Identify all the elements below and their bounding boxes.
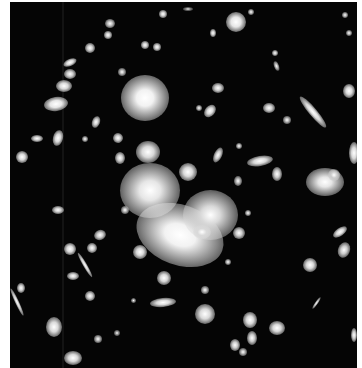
galaxy — [43, 95, 69, 112]
galaxy — [336, 240, 353, 259]
galaxy — [114, 330, 120, 336]
galaxy — [157, 271, 171, 285]
galaxy — [87, 243, 97, 253]
galaxy — [52, 206, 64, 214]
galaxy — [212, 83, 224, 93]
galaxy — [245, 210, 251, 216]
galaxy-cluster-image — [10, 2, 357, 368]
galaxy — [195, 304, 215, 324]
galaxy — [328, 169, 340, 181]
galaxy — [112, 132, 125, 145]
galaxy — [136, 141, 160, 163]
galaxy — [239, 348, 247, 356]
galaxy — [342, 12, 348, 18]
galaxy — [64, 69, 76, 79]
galaxy — [64, 243, 76, 255]
galaxy — [272, 50, 278, 56]
galaxy — [226, 12, 246, 32]
galaxy — [141, 41, 149, 49]
galaxy — [272, 167, 282, 181]
galaxy — [343, 84, 355, 98]
galaxy — [104, 31, 112, 39]
galaxy — [346, 30, 352, 36]
galaxy — [31, 135, 43, 142]
galaxy — [193, 225, 211, 239]
galaxy — [183, 7, 193, 11]
galaxy — [150, 296, 177, 307]
galaxy — [67, 272, 79, 280]
galaxy — [351, 328, 357, 342]
galaxy — [202, 102, 219, 119]
galaxy-halo — [121, 75, 169, 121]
galaxy — [311, 296, 321, 309]
galaxy — [121, 206, 129, 214]
galaxy — [196, 105, 202, 111]
galaxy — [211, 146, 225, 164]
galaxy — [248, 9, 254, 15]
galaxy — [56, 80, 72, 92]
galaxy — [94, 335, 102, 343]
galaxy — [225, 259, 231, 265]
galaxy — [201, 286, 209, 294]
galaxy — [17, 283, 25, 293]
galaxy — [303, 258, 317, 272]
galaxy — [236, 143, 242, 149]
galaxy — [263, 103, 275, 113]
galaxy — [233, 227, 245, 239]
galaxy — [246, 154, 273, 168]
galaxy — [272, 60, 280, 71]
galaxy — [210, 29, 216, 37]
galaxy — [46, 317, 62, 337]
galaxy — [85, 291, 95, 301]
galaxy — [76, 252, 93, 278]
galaxy — [93, 228, 108, 242]
galaxy — [118, 68, 126, 76]
galaxy — [243, 312, 257, 328]
galaxy — [64, 351, 82, 365]
galaxy — [234, 176, 242, 186]
galaxy — [131, 298, 136, 303]
galaxy — [90, 115, 102, 129]
galaxy — [349, 142, 357, 164]
galaxy — [105, 19, 115, 28]
galaxy-halo — [120, 163, 180, 218]
galaxy — [159, 10, 167, 18]
galaxy — [269, 321, 285, 335]
galaxy — [179, 163, 197, 181]
galaxy — [82, 136, 88, 142]
galaxy — [247, 331, 257, 345]
galaxy — [16, 151, 28, 163]
detector-streak — [62, 2, 64, 368]
galaxy — [115, 152, 125, 164]
galaxy — [133, 245, 147, 259]
galaxy — [153, 43, 161, 51]
galaxy — [297, 94, 329, 130]
galaxy — [331, 224, 349, 240]
galaxy — [85, 43, 95, 53]
galaxy — [283, 116, 291, 124]
galaxy — [62, 56, 78, 68]
